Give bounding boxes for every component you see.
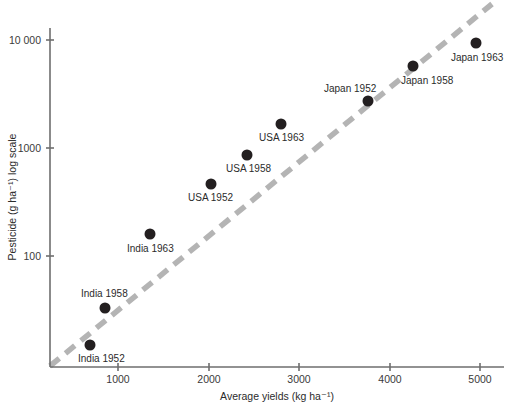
point-marker[interactable] — [206, 179, 217, 190]
point-marker[interactable] — [363, 96, 374, 107]
data-point[interactable]: USA 1958 — [226, 150, 271, 175]
trend-line-group — [50, 4, 492, 366]
x-tick-label-1000: 1000 — [106, 373, 130, 385]
trend-line — [50, 4, 492, 366]
x-axis-title: Average yields (kg ha⁻¹) — [220, 390, 334, 402]
point-label: USA 1958 — [226, 163, 271, 174]
y-tick-label-1000: 1000 — [18, 142, 42, 154]
y-tick-label-10000: 10 000 — [9, 34, 41, 46]
point-marker[interactable] — [242, 150, 253, 161]
point-label: India 1952 — [78, 353, 125, 364]
point-label: USA 1963 — [259, 132, 304, 143]
x-tick-label-2000: 2000 — [197, 373, 221, 385]
x-tick-label-3000: 3000 — [287, 373, 311, 385]
data-point[interactable]: Japan 1952 — [324, 83, 377, 107]
point-label: Japan 1952 — [324, 83, 377, 94]
data-point[interactable]: USA 1952 — [188, 179, 233, 204]
x-tick-label-5000: 5000 — [468, 373, 492, 385]
point-marker[interactable] — [471, 38, 482, 49]
point-label: India 1958 — [81, 288, 128, 299]
data-point[interactable]: India 1952 — [78, 340, 125, 365]
scatter-plot: 10 000 1000 100 1000 2000 3000 4000 5000… — [0, 0, 508, 406]
x-tick-label-4000: 4000 — [378, 373, 402, 385]
point-label: Japan 1958 — [401, 75, 454, 86]
point-marker[interactable] — [276, 119, 287, 130]
data-point[interactable]: USA 1963 — [259, 119, 304, 144]
point-label: India 1963 — [127, 243, 174, 254]
y-tick-label-100: 100 — [23, 250, 41, 262]
chart-figure: 10 000 1000 100 1000 2000 3000 4000 5000… — [0, 0, 508, 406]
point-marker[interactable] — [145, 229, 156, 240]
point-label: Japan 1963 — [451, 52, 504, 63]
point-marker[interactable] — [100, 303, 111, 314]
data-point[interactable]: Japan 1963 — [451, 38, 504, 64]
y-axis-title: Pesticide (g ha⁻¹) log scale — [6, 133, 18, 260]
data-point[interactable]: India 1963 — [127, 229, 174, 255]
point-marker[interactable] — [85, 340, 96, 351]
point-label: USA 1952 — [188, 192, 233, 203]
point-marker[interactable] — [408, 61, 419, 72]
data-points-group: India 1952 India 1958 India 1963 USA 195… — [78, 38, 504, 365]
